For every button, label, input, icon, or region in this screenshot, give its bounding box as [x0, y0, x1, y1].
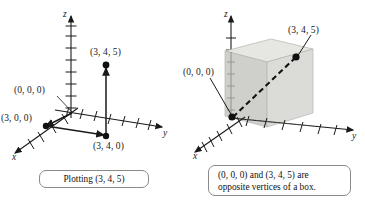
caption-right: (0, 0, 0) and (3, 4, 5) are opposite ver… [208, 165, 351, 196]
left-y-axis-label: y [163, 129, 167, 139]
caption-right-line-1: (0, 0, 0) and (3, 4, 5) are [218, 169, 350, 181]
caption-left-text: Plotting (3, 4, 5) [63, 174, 124, 184]
right-x-axis-ticks [202, 117, 242, 152]
left-label-3-4-5: (3, 4, 5) [90, 48, 121, 58]
caption-left: Plotting (3, 4, 5) [39, 170, 149, 188]
figure-container: z y x (0, 0, 0) (3, 0, 0) (3, 4, 0) (3, … [0, 0, 365, 213]
left-z-axis-label: z [63, 10, 67, 20]
right-x-axis [195, 117, 245, 152]
right-point-3-4-5 [292, 53, 299, 60]
left-path-segments [46, 68, 106, 136]
left-label-origin: (0, 0, 0) [14, 86, 45, 96]
box-right-face [267, 49, 313, 127]
left-label-3-0-0: (3, 0, 0) [1, 114, 32, 124]
left-point-3-4-0 [103, 133, 109, 139]
right-point-origin [228, 113, 235, 120]
right-x-axis-label: x [193, 152, 197, 162]
right-y-axis-label: y [352, 132, 356, 142]
left-point-3-4-5 [103, 62, 110, 69]
left-z-axis [66, 16, 77, 118]
left-x-axis-label: x [12, 153, 16, 163]
right-label-origin: (0, 0, 0) [183, 68, 214, 78]
left-label-3-4-0: (3, 4, 0) [93, 142, 124, 152]
right-z-axis-label: z [224, 10, 228, 20]
right-label-3-4-5: (3, 4, 5) [288, 26, 319, 36]
caption-right-line-2: opposite vertices of a box. [218, 181, 350, 193]
left-point-3-0-0 [43, 123, 49, 129]
left-origin-leader [57, 96, 72, 112]
